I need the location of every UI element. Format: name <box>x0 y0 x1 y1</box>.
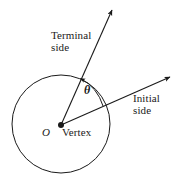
vertex-label: Vertex <box>62 127 91 139</box>
initial-side-label-line2: side <box>133 104 151 116</box>
terminal-side-ray <box>61 10 112 125</box>
angle-diagram-figure: Terminalside Initialside O Vertex θ <box>0 0 184 186</box>
origin-label: O <box>42 127 50 139</box>
terminal-side-label-line2: side <box>51 41 69 53</box>
terminal-side-label: Terminalside <box>51 30 91 53</box>
initial-side-label: Initialside <box>133 93 160 116</box>
initial-side-label-line1: Initial <box>133 92 160 104</box>
theta-angle-label: θ <box>84 85 90 97</box>
terminal-side-label-line1: Terminal <box>51 29 91 41</box>
